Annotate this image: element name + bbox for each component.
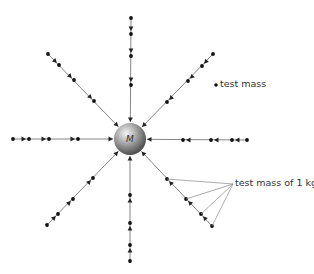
arrowhead-icon — [147, 137, 152, 142]
test-mass-dot — [76, 137, 80, 141]
test-mass-legend-dot — [214, 83, 218, 87]
arrowhead-icon — [128, 156, 133, 161]
field-line-lower-right — [142, 151, 214, 227]
arrowhead-icon — [71, 137, 76, 142]
test-mass-dot — [245, 138, 249, 142]
arrowhead-icon — [66, 201, 71, 206]
arrowhead-icon — [169, 95, 174, 100]
arrowhead-icon — [109, 137, 114, 142]
test-mass-dot — [128, 221, 132, 225]
test-mass-dot — [211, 52, 215, 56]
test-mass-dot — [27, 137, 31, 141]
test-mass-dot — [57, 63, 61, 67]
test-mass-1kg-label: test mass of 1 kg — [235, 177, 314, 188]
test-mass-dot — [46, 52, 50, 56]
test-mass-dot — [129, 54, 133, 58]
test-mass-dot — [56, 212, 60, 216]
field-line-left — [11, 137, 113, 142]
arrowhead-icon — [129, 49, 134, 54]
test-mass-dot — [91, 176, 95, 180]
arrowhead-icon — [186, 138, 191, 143]
test-mass-dot — [181, 138, 185, 142]
arrowhead-icon — [214, 138, 219, 143]
test-mass-dot — [230, 138, 234, 142]
test-mass-dot — [128, 259, 132, 263]
test-mass-dot — [47, 137, 51, 141]
field-line-top — [128, 16, 133, 122]
test-mass-dot — [129, 83, 133, 87]
arrowhead-icon — [128, 198, 133, 203]
test-mass-dot — [71, 197, 75, 201]
test-mass-dot — [11, 137, 15, 141]
gravitational-field-diagram: M test mass test mass of 1 kg — [0, 0, 314, 274]
arrowhead-icon — [129, 27, 134, 32]
field-line-right — [147, 137, 249, 142]
arrowhead-icon — [128, 117, 133, 122]
field-line-upper-right — [142, 52, 215, 127]
test-mass-dot — [128, 193, 132, 197]
test-mass-dot — [209, 138, 213, 142]
arrowhead-icon — [22, 137, 27, 142]
arrowhead-icon — [67, 73, 72, 78]
test-mass-dot — [92, 99, 96, 103]
test-mass-dot — [72, 78, 76, 82]
field-line-bottom — [128, 156, 133, 263]
test-mass-dot — [186, 79, 190, 83]
field-line-upper-left — [46, 52, 118, 127]
test-mass-dot — [129, 32, 133, 36]
arrowhead-icon — [128, 226, 133, 231]
central-mass-label: M — [126, 134, 134, 144]
test-mass-label: test mass — [220, 78, 266, 89]
field-lines-svg: M — [0, 0, 314, 274]
test-mass-dot — [45, 223, 49, 227]
arrowhead-icon — [235, 138, 240, 143]
label-pointer-lines — [167, 179, 233, 226]
field-line-lower-left — [45, 151, 118, 227]
test-mass-dot — [165, 100, 169, 104]
test-mass-dot — [129, 16, 133, 20]
arrowhead-icon — [129, 78, 134, 83]
arrowhead-icon — [128, 248, 133, 253]
test-mass-dot — [200, 64, 204, 68]
test-mass-dot — [128, 243, 132, 247]
arrowhead-icon — [42, 137, 47, 142]
